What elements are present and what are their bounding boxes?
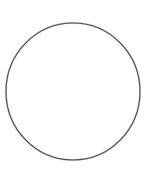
- circle-drawing: [0, 0, 159, 174]
- background-rect: [0, 0, 159, 174]
- image-canvas: [0, 0, 159, 174]
